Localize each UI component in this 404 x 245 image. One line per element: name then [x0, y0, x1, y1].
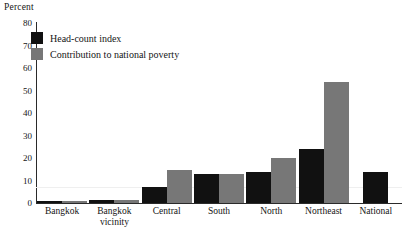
bar-group [141, 23, 193, 203]
bar [114, 200, 139, 203]
bar-group [297, 23, 349, 203]
x-tick-label: South [193, 206, 245, 228]
x-axis-line [36, 203, 402, 204]
y-tick-60: 60 [2, 63, 32, 73]
bar-chart: Percent 80 70 60 50 40 30 20 10 0 Head-c… [0, 0, 404, 245]
y-tick-10: 10 [2, 176, 32, 186]
x-tick-label: North [245, 206, 297, 228]
bar [142, 187, 167, 203]
bar [246, 172, 271, 204]
x-tick-label: National [350, 206, 402, 228]
y-tick-20: 20 [2, 153, 32, 163]
bar-groups [36, 23, 402, 203]
x-tick-label: Central [141, 206, 193, 228]
y-tick-50: 50 [2, 86, 32, 96]
bar-group [193, 23, 245, 203]
bar [219, 174, 244, 203]
bar [62, 201, 87, 203]
y-tick-0: 0 [2, 198, 32, 208]
bar [324, 82, 349, 204]
x-tick-label: Bangkokvicinity [88, 206, 140, 228]
y-tick-30: 30 [2, 131, 32, 141]
bar [194, 174, 219, 203]
bar [167, 170, 192, 203]
x-tick-label: Bangkok [36, 206, 88, 228]
bar [299, 149, 324, 203]
bar-group [36, 23, 88, 203]
bar-group [350, 23, 402, 203]
bar-group [88, 23, 140, 203]
y-tick-80: 80 [2, 18, 32, 28]
y-axis-tick-labels: 80 70 60 50 40 30 20 10 0 [0, 0, 32, 245]
bar [89, 200, 114, 203]
x-axis-tick-labels: BangkokBangkokvicinityCentralSouthNorthN… [36, 206, 402, 228]
bar [363, 172, 388, 204]
x-tick-label: Northeast [297, 206, 349, 228]
bar-group [245, 23, 297, 203]
y-tick-70: 70 [2, 41, 32, 51]
bar [271, 158, 296, 203]
bar [37, 201, 62, 203]
y-tick-40: 40 [2, 108, 32, 118]
